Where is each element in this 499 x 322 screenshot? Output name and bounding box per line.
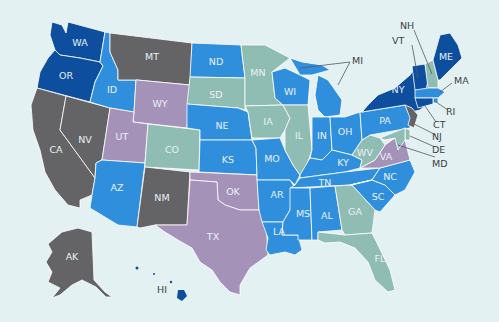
label-SD: SD [209,89,222,100]
leader-MA [440,83,452,92]
label-RI: RI [446,106,455,117]
label-SC: SC [372,191,385,202]
label-MT: MT [145,51,159,62]
label-NH: NH [400,20,414,31]
label-IA: IA [263,116,273,127]
label-WY: WY [152,98,167,109]
label-LA: LA [273,226,286,237]
label-IL: IL [295,130,304,141]
label-NY: NY [392,84,405,95]
label-WI: WI [284,86,296,97]
label-VA: VA [380,151,393,162]
label-AK: AK [66,251,79,262]
label-TX: TX [206,231,220,242]
label-PA: PA [379,115,391,126]
label-WV: WV [357,147,373,158]
label-VT: VT [392,35,404,46]
label-CT: CT [433,119,446,130]
label-ME: ME [439,51,453,62]
label-NE: NE [215,120,228,131]
label-AL: AL [321,210,333,221]
state-MI[interactable] [315,75,342,117]
label-CO: CO [165,144,179,155]
label-NJ: NJ [432,131,442,142]
leader-MI-2 [338,62,350,85]
label-CA: CA [49,144,63,155]
state-CT[interactable] [415,98,433,108]
label-OR: OR [59,70,73,81]
label-GA: GA [348,206,362,217]
state-DE[interactable] [405,128,410,140]
label-UT: UT [116,131,129,142]
state-MA[interactable] [415,88,445,98]
label-MN: MN [250,67,265,78]
label-MI: MI [352,55,363,66]
label-OH: OH [338,126,353,137]
label-AZ: AZ [110,182,123,193]
label-KS: KS [222,154,234,165]
us-state-map: WA OR CA NV ID MT WY UT AZ CO NM ND SD N… [0,0,499,322]
label-NV: NV [78,134,92,145]
state-HI[interactable] [177,290,187,301]
state-AK[interactable] [46,228,112,298]
label-MS: MS [296,208,310,219]
state-AZ[interactable] [90,160,145,227]
label-HI: HI [157,284,167,295]
state-HI-island-2[interactable] [153,273,155,275]
label-OK: OK [226,186,240,197]
label-IN: IN [317,130,327,141]
label-KY: KY [337,157,349,168]
label-NM: NM [154,192,169,203]
label-ID: ID [107,84,117,95]
label-WA: WA [72,37,88,48]
label-NC: NC [383,171,397,182]
label-TN: TN [318,177,332,188]
label-MO: MO [264,153,280,164]
state-RI[interactable] [433,98,438,103]
label-AR: AR [270,189,283,200]
label-FL: FL [375,253,386,264]
label-ND: ND [209,56,223,67]
state-HI-island-3[interactable] [170,281,172,283]
label-MD: MD [432,158,448,169]
label-DE: DE [432,144,445,155]
state-HI-island-1[interactable] [136,267,139,270]
label-MA: MA [454,75,469,86]
